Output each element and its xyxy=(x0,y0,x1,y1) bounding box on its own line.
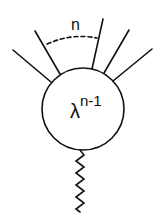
vertex-label: λn-1 xyxy=(70,92,102,122)
external-leg-4 xyxy=(104,30,129,73)
wavy-propagator xyxy=(76,150,84,212)
external-leg-3 xyxy=(92,19,103,69)
leg-count-label: n xyxy=(71,16,80,33)
vertex-circle xyxy=(42,68,124,150)
vertex-label-exponent: n-1 xyxy=(80,92,102,109)
leg-count-arc xyxy=(47,36,97,44)
external-leg-2 xyxy=(35,31,60,74)
vertex-diagram: n λn-1 xyxy=(0,0,159,218)
external-leg-1 xyxy=(13,50,51,82)
external-leg-5 xyxy=(113,49,152,81)
